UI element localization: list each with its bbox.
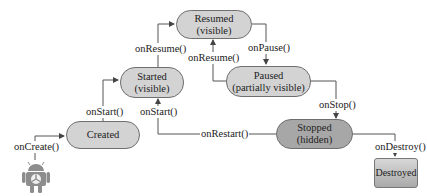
label-on-pause: onPause() [247, 42, 291, 54]
state-destroyed-name: Destroyed [375, 167, 416, 179]
label-on-start-restart: onStart() [139, 106, 178, 118]
label-on-stop: onStop() [318, 99, 357, 111]
state-started-name: Started [137, 71, 167, 83]
state-resumed-name: Resumed [194, 13, 233, 25]
label-on-restart: onRestart() [200, 128, 249, 140]
state-created-name: Created [87, 129, 120, 141]
state-paused-sub: (partially visible) [232, 82, 305, 94]
state-paused-name: Paused [254, 70, 284, 82]
state-stopped-name: Stopped [297, 122, 331, 134]
state-created: Created [66, 121, 140, 149]
label-on-resume-started: onResume() [134, 43, 187, 55]
android-robot-icon [21, 160, 51, 194]
state-stopped: Stopped (hidden) [276, 119, 353, 149]
state-destroyed: Destroyed [374, 158, 418, 188]
state-resumed: Resumed (visible) [176, 10, 252, 39]
label-on-create: onCreate() [13, 141, 60, 153]
label-on-destroy: onDestroy() [374, 141, 427, 153]
state-started-sub: (visible) [135, 83, 170, 95]
state-stopped-sub: (hidden) [297, 134, 333, 146]
label-on-resume-paused: onResume() [187, 52, 240, 64]
state-resumed-sub: (visible) [197, 25, 232, 37]
state-started: Started (visible) [120, 67, 184, 98]
state-paused: Paused (partially visible) [226, 66, 311, 97]
label-on-start-created: onStart() [85, 106, 124, 118]
